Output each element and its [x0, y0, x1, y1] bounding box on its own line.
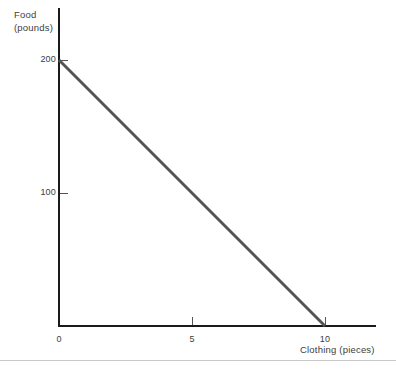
plot-area	[0, 0, 396, 370]
budget-constraint-line	[59, 60, 325, 326]
chart-figure: Food (pounds) 100 200 0 5 10 Clothing (p…	[0, 0, 396, 370]
footer-divider	[0, 360, 396, 361]
